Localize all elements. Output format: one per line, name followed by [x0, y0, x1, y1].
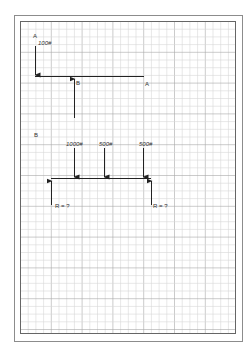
reaction-label-right: R = ?: [153, 203, 168, 209]
section-label-a: A: [33, 33, 37, 39]
load-label-100: 100#: [38, 40, 52, 46]
load-label-3: 500#: [139, 141, 153, 147]
graph-paper-sheet: A 100# B A B 1000# 500# 500# R = ? R = ?: [0, 0, 251, 356]
support-label-b: B: [76, 80, 80, 86]
reaction-label-left: R = ?: [55, 203, 70, 209]
load-label-2: 500#: [99, 141, 113, 147]
section-label-b: B: [34, 132, 38, 138]
end-label-a: A: [145, 81, 149, 87]
load-label-1: 1000#: [66, 141, 83, 147]
